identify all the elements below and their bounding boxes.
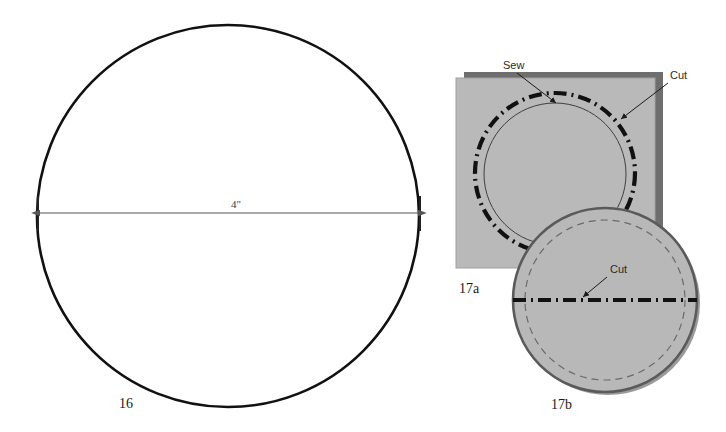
figure-16-group: 4" 16	[37, 25, 420, 411]
cut-callout-label-17a: Cut	[670, 69, 687, 81]
figure-17b-number-label: 17b	[551, 397, 572, 412]
cut-callout-label-17b: Cut	[610, 263, 627, 275]
figure-16-number-label: 16	[119, 396, 133, 411]
illustration-canvas: 4" 16 Sew Cut 17a	[0, 0, 726, 432]
figure-16-circle-outline	[37, 25, 419, 407]
figure-17b-group: Cut 17b	[513, 208, 700, 412]
figure-17a-number-label: 17a	[459, 281, 480, 296]
sewing-pattern-diagram: 4" 16 Sew Cut 17a	[0, 0, 726, 432]
sew-callout-label: Sew	[503, 59, 524, 71]
dimension-label-diameter: 4"	[231, 198, 241, 210]
